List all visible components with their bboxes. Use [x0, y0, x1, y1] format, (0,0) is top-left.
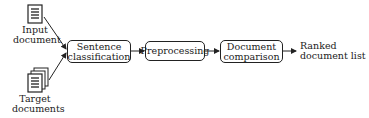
step-line2: comparison: [223, 52, 279, 62]
preprocessing-box: Preprocessing: [145, 41, 205, 61]
arrow-target-to-classification: [49, 53, 66, 80]
input-document-label: Input document: [13, 25, 57, 45]
single-document-icon: [28, 5, 42, 23]
input-label-line2: document: [13, 35, 57, 45]
output-line2: document list: [300, 51, 366, 61]
step-line1: Preprocessing: [141, 46, 210, 56]
target-label-line2: documents: [12, 104, 58, 114]
step-line2: classification: [68, 52, 131, 62]
document-comparison-box: Documentcomparison: [220, 40, 283, 63]
ranked-document-list-label: Ranked document list: [300, 41, 366, 61]
sentence-classification-box: Sentenceclassification: [67, 40, 131, 63]
step-line1: Document: [223, 42, 279, 52]
document-stack-icon: [28, 68, 48, 92]
step-line1: Sentence: [68, 42, 131, 52]
target-documents-label: Target documents: [12, 94, 58, 114]
